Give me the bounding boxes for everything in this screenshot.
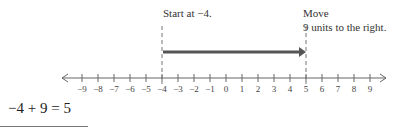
ticks-group: −9−8−7−6−5−4−3−2−10123456789 <box>77 74 373 94</box>
tick-label: 3 <box>272 84 277 94</box>
tick-label: −6 <box>125 84 135 94</box>
equation-underline <box>0 126 88 127</box>
tick-label: 7 <box>336 84 341 94</box>
tick-label: 8 <box>352 84 357 94</box>
tick-label: 2 <box>256 84 261 94</box>
move-arrow-head <box>299 47 306 57</box>
tick-label: 9 <box>368 84 373 94</box>
tick-label: −5 <box>141 84 151 94</box>
tick-label: −2 <box>189 84 199 94</box>
tick-label: 0 <box>224 84 229 94</box>
tick-label: 1 <box>240 84 245 94</box>
tick-label: −3 <box>173 84 183 94</box>
tick-label: −4 <box>157 84 167 94</box>
tick-label: 6 <box>320 84 325 94</box>
tick-label: −1 <box>205 84 215 94</box>
tick-label: 5 <box>304 84 309 94</box>
tick-label: 4 <box>288 84 293 94</box>
tick-label: −9 <box>77 84 87 94</box>
move-annotation-line2: 9 units to the right. <box>303 21 387 33</box>
tick-label: −8 <box>93 84 103 94</box>
equation: −4 + 9 = 5 <box>8 100 71 117</box>
move-annotation-line1: Move <box>303 7 329 19</box>
tick-label: −7 <box>109 84 119 94</box>
start-annotation: Start at −4. <box>163 7 212 19</box>
